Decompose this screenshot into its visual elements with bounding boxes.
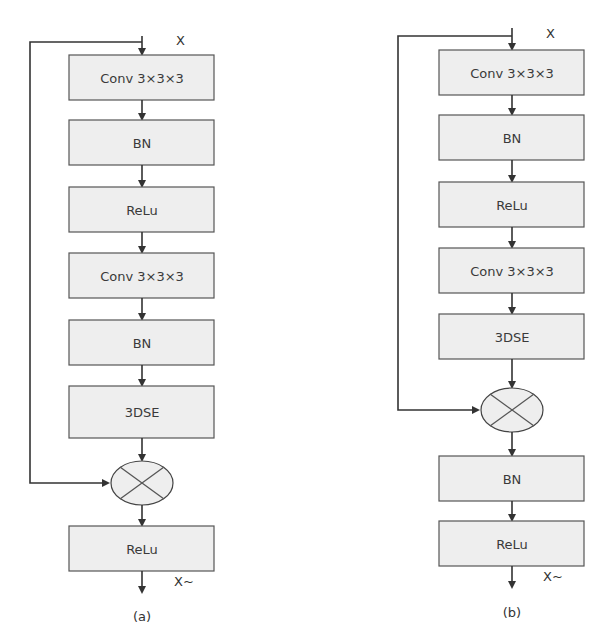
output-label: X~ [543, 569, 563, 584]
diagram-b: X Conv 3×3×3 BN ReLu Conv 3×3×3 3DSE [398, 26, 584, 620]
block-bn-1: BN [69, 120, 214, 165]
multiply-icon [111, 461, 173, 505]
svg-text:ReLu: ReLu [126, 203, 158, 218]
input-label: X [176, 33, 185, 48]
block-relu-1: ReLu [69, 187, 214, 232]
input-label: X [546, 26, 555, 41]
caption-b: (b) [503, 605, 521, 620]
svg-text:ReLu: ReLu [126, 542, 158, 557]
svg-text:BN: BN [503, 472, 522, 487]
output-label: X~ [174, 574, 194, 589]
svg-text:ReLu: ReLu [496, 537, 528, 552]
block-relu-2: ReLu [69, 526, 214, 571]
svg-text:BN: BN [503, 131, 522, 146]
svg-text:Conv 3×3×3: Conv 3×3×3 [470, 66, 554, 81]
svg-text:Conv 3×3×3: Conv 3×3×3 [100, 71, 184, 86]
block-bn-2: BN [69, 320, 214, 365]
svg-text:3DSE: 3DSE [495, 330, 530, 345]
block-relu-1: ReLu [439, 182, 584, 227]
diagram-a: X Conv 3×3×3 BN ReLu Conv 3×3×3 BN [30, 33, 214, 624]
block-conv-2: Conv 3×3×3 [69, 253, 214, 298]
svg-text:BN: BN [133, 136, 152, 151]
svg-text:3DSE: 3DSE [125, 405, 160, 420]
block-3dse: 3DSE [439, 314, 584, 359]
multiply-icon [481, 388, 543, 432]
svg-text:BN: BN [133, 336, 152, 351]
block-conv-1: Conv 3×3×3 [439, 50, 584, 95]
block-3dse: 3DSE [69, 386, 214, 438]
block-conv-1: Conv 3×3×3 [69, 55, 214, 100]
svg-text:Conv 3×3×3: Conv 3×3×3 [470, 264, 554, 279]
block-conv-2: Conv 3×3×3 [439, 248, 584, 293]
block-bn-2: BN [439, 456, 584, 501]
svg-text:Conv 3×3×3: Conv 3×3×3 [100, 269, 184, 284]
block-bn-1: BN [439, 115, 584, 160]
block-relu-2: ReLu [439, 521, 584, 566]
svg-text:ReLu: ReLu [496, 198, 528, 213]
residual-block-diagrams: X Conv 3×3×3 BN ReLu Conv 3×3×3 BN [0, 0, 604, 643]
caption-a: (a) [133, 609, 151, 624]
